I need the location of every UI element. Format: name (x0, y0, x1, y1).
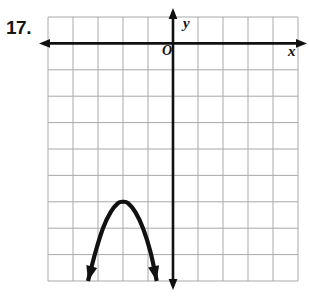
y-axis-label: y (183, 16, 190, 31)
parabola-arrow-left (86, 265, 97, 281)
graph-figure: 17. y x O (0, 0, 309, 296)
y-axis-arrow-down (169, 279, 178, 290)
problem-number: 17. (6, 18, 31, 37)
y-axis-arrow-up (169, 8, 178, 19)
origin-label: O (162, 44, 172, 58)
coordinate-grid (48, 17, 298, 281)
x-axis-arrow-right (296, 39, 307, 48)
graph-canvas (48, 17, 298, 281)
x-axis-arrow-left (39, 39, 50, 48)
x-axis-label: x (288, 44, 296, 59)
